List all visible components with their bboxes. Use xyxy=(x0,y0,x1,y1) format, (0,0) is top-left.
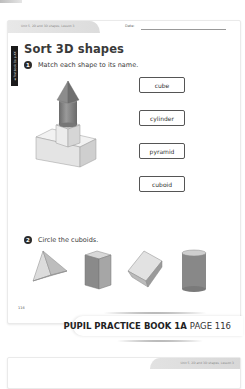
cube-icon[interactable] xyxy=(126,249,164,289)
date-line xyxy=(141,29,226,30)
unit-header: Unit 5, 2D and 3D shapes, Lesson 3 xyxy=(21,24,75,28)
cylinder-icon[interactable] xyxy=(180,249,208,293)
next-unit-header-band: Unit 5, 2D and 3D shapes, Lesson 3 xyxy=(150,358,240,369)
book-page: PAGE 116 xyxy=(190,321,231,331)
shape-tower-figure xyxy=(28,81,118,201)
workbook-page: Unit 5, 2D and 3D shapes, Lesson 3 Date:… xyxy=(7,20,241,324)
label-cuboid[interactable]: cuboid xyxy=(139,176,185,192)
book-title: PUPIL PRACTICE BOOK 1A xyxy=(63,321,186,331)
question-2-text: Circle the cuboids. xyxy=(38,236,98,244)
next-workbook-page: Unit 5, 2D and 3D shapes, Lesson 3 xyxy=(7,357,241,389)
banner-shadow-bottom xyxy=(110,340,210,342)
page-number: 116 xyxy=(18,306,25,310)
label-cube[interactable]: cube xyxy=(139,77,185,93)
banner-shadow-top xyxy=(95,312,215,314)
next-unit-header: Unit 5, 2D and 3D shapes, Lesson 3 xyxy=(180,361,234,365)
cuboid-icon[interactable] xyxy=(83,249,113,291)
textbook-reference: ◄ Textbook 1a p.XX xyxy=(13,51,17,80)
label-cylinder[interactable]: cylinder xyxy=(139,110,185,126)
question-1-number: 1 xyxy=(24,61,32,69)
page-title: Sort 3D shapes xyxy=(24,42,124,56)
textbook-reference-tab: ◄ Textbook 1a p.XX xyxy=(11,46,18,86)
pyramid-shape xyxy=(57,81,79,103)
pyramid-icon[interactable] xyxy=(31,249,69,285)
unit-header-band: Unit 5, 2D and 3D shapes, Lesson 3 xyxy=(8,21,100,33)
label-pyramid[interactable]: pyramid xyxy=(139,143,185,159)
top-edge-bar xyxy=(0,0,22,3)
date-label: Date: xyxy=(125,24,135,28)
question-1-text: Match each shape to its name. xyxy=(38,61,138,69)
question-2-number: 2 xyxy=(24,236,32,244)
page-reference-banner: PUPIL PRACTICE BOOK 1A PAGE 116 xyxy=(73,316,243,336)
